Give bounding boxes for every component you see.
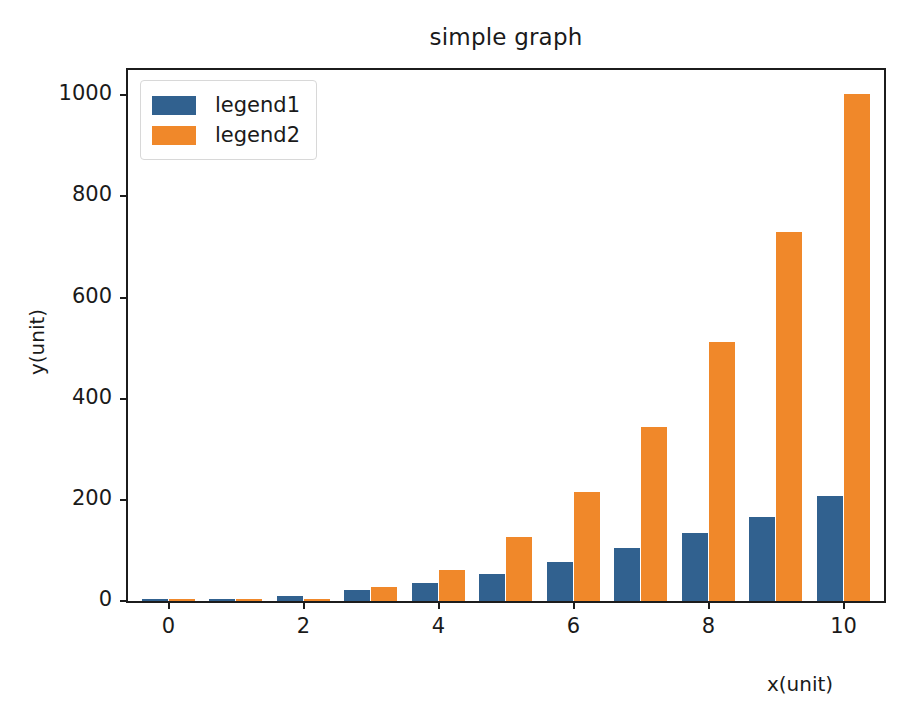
bar-legend2-x8: [709, 342, 735, 601]
y-tick-mark: [120, 297, 128, 299]
y-tick-mark: [120, 398, 128, 400]
y-tick-mark: [120, 499, 128, 501]
bar-group: [817, 70, 871, 601]
legend-swatch-legend2: [152, 126, 196, 145]
bar-group: [682, 70, 736, 601]
bar-legend1-x10: [817, 496, 843, 601]
x-tick-mark: [708, 601, 710, 609]
x-tick-label: 10: [804, 614, 884, 638]
bar-legend1-x2: [277, 596, 303, 601]
x-tick-label: 0: [129, 614, 209, 638]
bar-legend1-x7: [614, 548, 640, 601]
x-tick-label: 2: [264, 614, 344, 638]
bar-legend1-x0: [142, 599, 168, 601]
x-tick-mark: [438, 601, 440, 609]
bar-group: [547, 70, 601, 601]
legend-label: legend2: [215, 123, 300, 147]
legend-item-legend2: legend2: [152, 120, 300, 150]
legend-swatch-legend1: [152, 96, 196, 115]
bar-legend1-x1: [209, 599, 235, 601]
x-tick-mark: [168, 601, 170, 609]
bar-legend2-x3: [371, 587, 397, 601]
bar-legend1-x8: [682, 533, 708, 601]
chart-legend: legend1legend2: [140, 80, 317, 160]
bar-group: [749, 70, 803, 601]
x-tick-label: 6: [534, 614, 614, 638]
legend-item-legend1: legend1: [152, 90, 300, 120]
x-tick-mark: [573, 601, 575, 609]
y-tick-label: 0: [22, 587, 112, 611]
bar-legend2-x6: [574, 492, 600, 601]
bar-legend2-x9: [776, 232, 802, 601]
bar-legend2-x1: [236, 599, 262, 601]
chart-figure: simple graph 02004006008001000 0246810 l…: [0, 0, 921, 721]
x-axis-label: x(unit): [700, 672, 900, 696]
y-tick-label: 1000: [22, 81, 112, 105]
chart-title: simple graph: [126, 24, 886, 50]
plot-area: 02004006008001000 0246810 legend1legend2: [126, 68, 886, 603]
bar-group: [614, 70, 668, 601]
bar-legend2-x0: [169, 599, 195, 601]
x-tick-mark: [303, 601, 305, 609]
x-tick-label: 8: [669, 614, 749, 638]
bar-legend2-x4: [439, 570, 465, 601]
bar-legend1-x5: [479, 574, 505, 601]
y-axis-label: y(unit): [25, 282, 49, 402]
legend-label: legend1: [215, 93, 300, 117]
bar-group: [344, 70, 398, 601]
bar-legend1-x6: [547, 562, 573, 601]
y-tick-mark: [120, 94, 128, 96]
bar-legend1-x4: [412, 583, 438, 601]
y-tick-label: 800: [22, 182, 112, 206]
bar-legend1-x9: [749, 517, 775, 601]
bar-legend1-x3: [344, 590, 370, 601]
y-tick-mark: [120, 195, 128, 197]
bar-legend2-x2: [304, 599, 330, 601]
bar-legend2-x7: [641, 427, 667, 601]
bar-legend2-x10: [844, 94, 870, 601]
y-tick-mark: [120, 600, 128, 602]
x-tick-mark: [843, 601, 845, 609]
x-tick-label: 4: [399, 614, 479, 638]
bar-group: [412, 70, 466, 601]
bar-group: [479, 70, 533, 601]
bar-legend2-x5: [506, 537, 532, 601]
y-tick-label: 200: [22, 486, 112, 510]
